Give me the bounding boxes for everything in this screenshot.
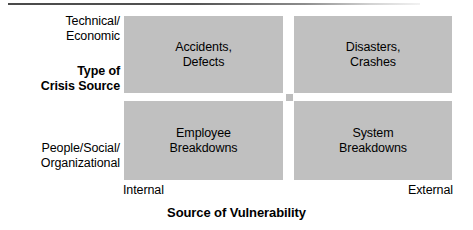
matrix-cell-label: System Breakdowns [339, 126, 407, 156]
matrix-cell-accidents-defects: Accidents, Defects [124, 16, 283, 93]
matrix-cell-employee-breakdowns: Employee Breakdowns [124, 101, 283, 180]
x-axis-label-external: External [0, 183, 453, 198]
y-axis-label-people-social-organizational: People/Social/ Organizational [41, 141, 120, 171]
matrix-cell-disasters-crashes: Disasters, Crashes [294, 16, 452, 93]
matrix-cell-system-breakdowns: System Breakdowns [294, 101, 452, 180]
y-axis-title: Type of Crisis Source [41, 64, 120, 94]
crisis-source-matrix-figure: Technical/ Economic Type of Crisis Sourc… [0, 0, 473, 230]
y-axis-label-technical-economic: Technical/ Economic [65, 14, 120, 44]
matrix-center-marker [286, 94, 293, 101]
matrix-cell-label: Accidents, Defects [175, 40, 232, 70]
matrix-cell-label: Disasters, Crashes [346, 40, 401, 70]
matrix-cell-label: Employee Breakdowns [170, 126, 238, 156]
x-axis-title: Source of Vulnerability [0, 205, 473, 221]
top-divider-rule [8, 3, 420, 5]
